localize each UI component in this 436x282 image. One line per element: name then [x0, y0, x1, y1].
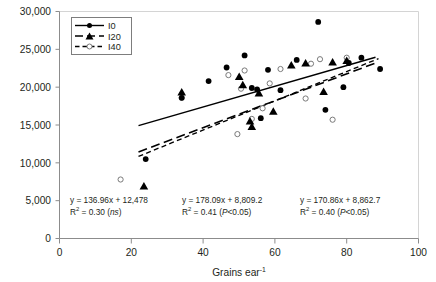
annotation-i40-equation: y = 170.86x + 8,862.7: [300, 195, 381, 205]
data-point: [269, 107, 278, 115]
y-axis-ticks: 0 5,000 10,000 15,000 20,000 25,000 30,0…: [20, 6, 60, 244]
r2-tail: <0.05): [228, 207, 252, 217]
data-point: [265, 67, 271, 73]
data-point: [143, 156, 149, 162]
r2-significance: ns: [110, 207, 119, 217]
y-tick-label-10000: 10,000: [20, 158, 51, 169]
scatter-plot: 0 5,000 10,000 15,000 20,000 25,000 30,0…: [0, 0, 436, 282]
data-point: [267, 81, 272, 86]
r2-value: = 0.41 (: [191, 207, 222, 217]
data-point: [303, 96, 308, 101]
y-tick-label-5000: 5,000: [26, 195, 52, 206]
legend-label-i20: I20: [108, 32, 121, 42]
x-axis-ticks: 0 20 40 60 80 100: [57, 239, 428, 259]
annotation-i20-equation: y = 178.09x + 8,809.2: [182, 195, 263, 205]
data-point: [179, 95, 185, 101]
r2-tail: <0.05): [346, 207, 370, 217]
data-point: [346, 60, 352, 66]
x-tick-label-80: 80: [341, 247, 353, 258]
data-point: [235, 72, 244, 80]
series-i20-points: [140, 57, 351, 190]
x-axis-title: Grains ear-1: [212, 266, 266, 278]
regression-annotations: y = 136.96x + 12,478 R2 = 0.30 (ns) y = …: [70, 195, 381, 217]
chart-figure: 0 5,000 10,000 15,000 20,000 25,000 30,0…: [0, 0, 436, 282]
data-point: [118, 177, 123, 182]
r2-tail: ): [119, 207, 122, 217]
data-point: [287, 61, 296, 69]
y-tick-label-20000: 20,000: [20, 82, 51, 93]
x-axis-title-base: Grains ear: [212, 267, 260, 278]
data-point: [249, 85, 255, 91]
annotation-i20-r2: R2 = 0.41 (P<0.05): [182, 206, 251, 216]
data-point: [226, 73, 231, 78]
annotation-i40: y = 170.86x + 8,862.7 R2 = 0.40 (P<0.05): [300, 195, 381, 217]
data-point: [317, 57, 322, 62]
data-point: [330, 117, 335, 122]
x-tick-label-100: 100: [410, 247, 427, 258]
data-point: [377, 66, 383, 72]
x-tick-label-20: 20: [126, 247, 138, 258]
data-point: [258, 115, 264, 121]
data-point: [140, 182, 149, 190]
data-point: [206, 78, 212, 84]
legend-label-i40: I40: [108, 42, 121, 52]
chart-legend[interactable]: I0 I20 I40: [72, 18, 132, 55]
annotation-i20: y = 178.09x + 8,809.2 R2 = 0.41 (P<0.05): [182, 195, 263, 217]
data-point: [278, 87, 284, 93]
y-tick-label-15000: 15,000: [20, 120, 51, 131]
annotation-i0-r2: R2 = 0.30 (ns): [70, 206, 122, 216]
data-point: [177, 88, 186, 96]
data-point: [278, 66, 283, 71]
annotation-i0-equation: y = 136.96x + 12,478: [70, 195, 148, 205]
y-tick-label-25000: 25,000: [20, 44, 51, 55]
annotation-i0: y = 136.96x + 12,478 R2 = 0.30 (ns): [70, 195, 148, 217]
x-tick-label-60: 60: [269, 247, 281, 258]
r2-value: = 0.30 (: [79, 207, 110, 217]
data-point: [239, 81, 248, 89]
data-point: [260, 106, 265, 111]
data-point: [359, 55, 365, 61]
data-point: [294, 57, 300, 63]
data-point: [242, 68, 247, 73]
filled-circle-icon: [87, 23, 92, 28]
y-tick-label-30000: 30,000: [20, 6, 51, 17]
trendlines: [139, 57, 379, 156]
data-point: [235, 132, 240, 137]
x-tick-label-40: 40: [197, 247, 209, 258]
r2-value: = 0.40 (: [309, 207, 340, 217]
data-point: [224, 65, 230, 71]
x-axis-title-superscript: -1: [260, 266, 266, 273]
legend-label-i0: I0: [108, 21, 116, 31]
data-point: [323, 107, 329, 113]
data-point: [319, 88, 328, 96]
data-point: [315, 19, 321, 25]
annotation-i40-r2: R2 = 0.40 (P<0.05): [300, 206, 369, 216]
open-circle-icon: [87, 44, 92, 49]
data-point: [328, 58, 337, 66]
data-point: [242, 53, 248, 59]
data-point: [341, 84, 347, 90]
x-tick-label-0: 0: [57, 247, 63, 258]
data-point: [254, 87, 260, 93]
y-tick-label-0: 0: [45, 233, 51, 244]
